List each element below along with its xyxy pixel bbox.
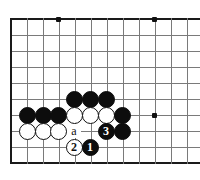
- stone-white[interactable]: [98, 107, 115, 124]
- grid-line-vertical: [155, 18, 156, 164]
- stone-white[interactable]: [50, 123, 67, 140]
- star-point-top-right: [152, 17, 157, 22]
- stone-move-3[interactable]: 3: [98, 123, 115, 140]
- point-label-a[interactable]: a: [67, 124, 81, 138]
- stone-white[interactable]: [82, 107, 99, 124]
- stone-black[interactable]: [98, 91, 115, 108]
- stone-black[interactable]: [82, 91, 99, 108]
- grid-line-vertical: [123, 18, 124, 164]
- stone-move-2[interactable]: 2: [66, 139, 83, 156]
- stone-black[interactable]: [114, 107, 131, 124]
- grid-line-vertical: [43, 18, 44, 164]
- grid-line-vertical: [171, 18, 172, 164]
- stone-white[interactable]: [19, 123, 36, 140]
- go-board-diagram: a321: [0, 0, 200, 180]
- grid-line-vertical: [187, 18, 188, 164]
- board-edge-vertical: [10, 18, 12, 164]
- stone-black[interactable]: [66, 91, 83, 108]
- stone-label: 1: [87, 141, 93, 153]
- stone-white[interactable]: [66, 107, 83, 124]
- stone-move-1[interactable]: 1: [82, 139, 99, 156]
- star-point-top-left: [56, 17, 61, 22]
- stone-black[interactable]: [19, 107, 36, 124]
- stone-black[interactable]: [114, 123, 131, 140]
- grid-line-vertical: [139, 18, 140, 164]
- stone-black[interactable]: [50, 107, 67, 124]
- stone-label: 3: [103, 125, 109, 137]
- stone-label: 2: [71, 141, 77, 153]
- star-point-right: [152, 113, 157, 118]
- grid-line-vertical: [59, 18, 60, 164]
- goban-grid: a321: [0, 0, 200, 180]
- stone-white[interactable]: [35, 123, 52, 140]
- stone-black[interactable]: [35, 107, 52, 124]
- grid-line-vertical: [27, 18, 28, 164]
